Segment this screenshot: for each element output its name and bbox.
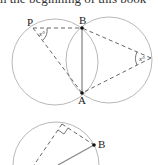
dashed-vertex-b	[62, 124, 94, 145]
bottom-circle	[13, 122, 99, 165]
point-b-top	[80, 26, 84, 30]
dashed-vertex-down	[34, 124, 62, 165]
angle-label-left: x°	[38, 30, 45, 38]
dashed-ra	[82, 58, 151, 93]
bottom-diagram: B	[13, 122, 105, 165]
angle-label-right: x°	[138, 55, 145, 63]
geometry-figure: x° x° P B A B	[0, 0, 158, 165]
dashed-rb	[82, 28, 151, 58]
left-circle	[12, 19, 98, 105]
label-a: A	[78, 94, 86, 106]
point-b-bottom	[92, 143, 96, 147]
label-b-top: B	[79, 14, 86, 26]
label-p: P	[27, 16, 33, 28]
label-b-bottom: B	[98, 138, 105, 150]
solid-segment-b	[58, 145, 94, 165]
right-angle-marker	[58, 128, 68, 134]
top-diagram: x° x° P B A	[12, 14, 152, 106]
angle-arc-right	[136, 52, 137, 65]
